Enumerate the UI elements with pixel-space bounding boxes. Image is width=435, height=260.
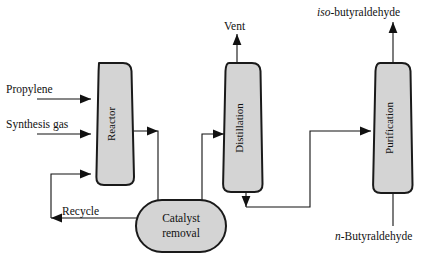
stream-propylene-label: Propylene — [6, 83, 53, 96]
arrowhead-icon — [360, 127, 371, 136]
stream-propylene — [37, 95, 91, 104]
arrowhead-icon — [213, 130, 224, 139]
unit-reactor[interactable]: Reactor — [96, 63, 134, 185]
stream-synthesis-gas-label: Synthesis gas — [6, 118, 69, 131]
arrowhead-icon — [242, 196, 251, 207]
arrowhead-icon — [80, 130, 91, 139]
stream-catalyst-removal-to-distillation — [202, 130, 224, 200]
iso-prefix: iso — [317, 6, 331, 18]
unit-purification-label: Purification — [383, 102, 395, 154]
arrowhead-icon — [233, 34, 242, 45]
unit-catalyst-removal-label-line2: removal — [162, 227, 200, 239]
arrowhead-icon — [147, 127, 158, 136]
stream-recycle-label: Recycle — [62, 205, 99, 218]
arrowhead-icon — [80, 170, 91, 179]
arrowhead-icon — [80, 95, 91, 104]
unit-distillation[interactable]: Distillation — [223, 63, 262, 192]
unit-purification[interactable]: Purification — [373, 63, 412, 193]
stream-iso-butyraldehyde-label: iso-butyraldehyde — [317, 6, 400, 19]
flowsheet-canvas: Catalyst removal Reactor Distillation Pu… — [0, 0, 435, 260]
stream-n-butyraldehyde-label: n-Butyraldehyde — [335, 230, 412, 243]
unit-catalyst-removal-label-line1: Catalyst — [162, 212, 200, 225]
stream-synthesis-gas — [37, 130, 91, 139]
stream-iso-butyraldehyde — [389, 22, 398, 63]
unit-reactor-label: Reactor — [105, 107, 117, 142]
stream-vent — [233, 34, 242, 63]
iso-suffix: -butyraldehyde — [330, 6, 400, 19]
stream-vent-label: Vent — [224, 20, 246, 32]
arrowhead-icon — [51, 214, 62, 223]
n-suffix: -Butyraldehyde — [341, 230, 413, 243]
process-flow-diagram: Catalyst removal Reactor Distillation Pu… — [0, 0, 435, 260]
arrowhead-icon — [389, 22, 398, 33]
stream-reactor-to-catalyst-removal — [131, 127, 158, 200]
unit-distillation-label: Distillation — [233, 103, 245, 153]
unit-catalyst-removal[interactable]: Catalyst removal — [136, 200, 226, 252]
